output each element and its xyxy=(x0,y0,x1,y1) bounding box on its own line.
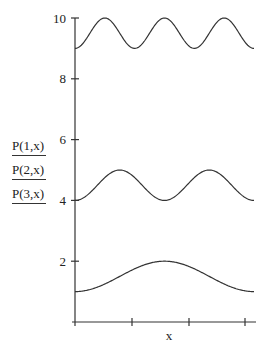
y-tick-label: 10 xyxy=(53,11,66,26)
series-curves xyxy=(75,18,254,292)
axes xyxy=(72,18,256,326)
legend: P(1,x) P(2,x) P(3,x) xyxy=(12,138,46,210)
legend-item-p1: P(1,x) xyxy=(12,138,46,156)
curve-p3 xyxy=(75,18,254,48)
y-tick-label: 8 xyxy=(60,71,67,86)
curve-p2 xyxy=(75,170,254,200)
curve-p1 xyxy=(75,261,254,291)
y-tick-label: 4 xyxy=(60,193,67,208)
legend-item-p2: P(2,x) xyxy=(12,162,46,180)
x-axis-label: x xyxy=(166,328,173,343)
y-tick-label: 2 xyxy=(60,254,67,269)
legend-item-p3: P(3,x) xyxy=(12,186,46,204)
y-tick-label: 6 xyxy=(60,132,67,147)
